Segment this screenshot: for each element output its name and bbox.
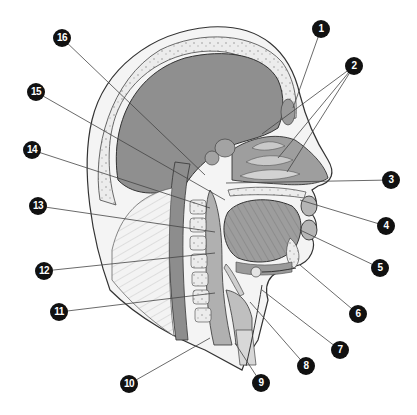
upper-lip [301, 196, 317, 216]
leader-line-1 [293, 29, 321, 108]
label-marker-16: 16 [53, 29, 71, 47]
label-marker-4: 4 [377, 217, 395, 235]
sphenoid-sinus-2 [205, 151, 219, 165]
label-marker-9: 9 [252, 374, 270, 392]
label-marker-1: 1 [312, 20, 330, 38]
label-marker-6: 6 [349, 305, 367, 323]
label-marker-2: 2 [345, 57, 363, 75]
leader-line-6 [300, 265, 358, 314]
label-marker-11: 11 [50, 303, 68, 321]
label-marker-14: 14 [23, 141, 41, 159]
label-marker-8: 8 [297, 357, 315, 375]
label-marker-7: 7 [331, 341, 349, 359]
head-neck-diagram: 12345678910111213141516 [0, 0, 417, 415]
frontal-sinus [281, 99, 295, 125]
hyoid-bone [251, 267, 261, 277]
label-marker-12: 12 [35, 262, 53, 280]
label-marker-15: 15 [27, 83, 45, 101]
label-marker-5: 5 [371, 259, 389, 277]
leader-line-10 [129, 338, 210, 384]
leader-line-7 [262, 290, 340, 350]
label-marker-13: 13 [29, 197, 47, 215]
label-marker-10: 10 [120, 375, 138, 393]
label-marker-3: 3 [382, 171, 400, 189]
